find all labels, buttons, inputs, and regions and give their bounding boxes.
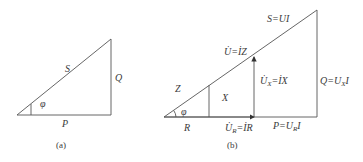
label-a-s: S — [65, 63, 70, 74]
label-b-ur-ir: U̇R=İR — [225, 122, 253, 135]
label-b-phi: φ — [181, 106, 187, 117]
label-b-q-uxi: Q=UXI — [320, 75, 349, 88]
label-a-p: P — [61, 118, 68, 129]
label-b-z: Z — [175, 83, 181, 94]
label-b-s-ui: S=UI — [267, 13, 290, 24]
caption-a: (a) — [56, 140, 66, 150]
label-a-phi: φ — [40, 98, 46, 109]
angle-arc-b — [174, 111, 176, 117]
triangle-a: S Q P φ (a) — [17, 39, 123, 150]
triangle-a-hypotenuse — [17, 39, 111, 115]
label-b-r: R — [183, 122, 190, 133]
caption-b: (b) — [227, 140, 238, 150]
label-b-x: X — [221, 92, 229, 103]
label-b-u-iz: U̇=İZ — [224, 46, 247, 57]
label-a-q: Q — [115, 72, 123, 83]
label-b-p-uri: P=URI — [272, 120, 301, 133]
triangle-b-hypotenuse — [164, 10, 317, 117]
triangle-b: S=UI U̇=İZ U̇X=İX Q=UXI Z X φ R U̇R=İR P… — [164, 10, 349, 150]
power-triangle-diagram: S Q P φ (a) S=UI U̇=İZ U̇X=İX Q=UXI Z X … — [0, 0, 363, 162]
label-b-ux-ix: U̇X=İX — [260, 75, 289, 88]
